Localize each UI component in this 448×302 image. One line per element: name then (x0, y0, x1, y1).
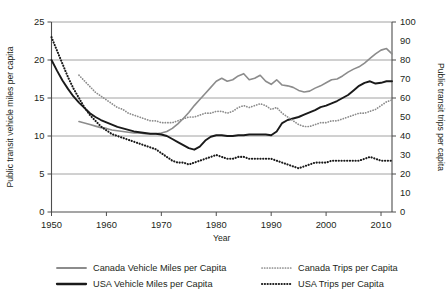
chart-canvas: 1950196019701980199020002010 0510152025 … (0, 0, 448, 302)
legend-label: Canada Vehicle Miles per Capita (93, 263, 227, 273)
y2-tick-label: 30 (400, 149, 410, 160)
y-axis-title: Public transit vehicle miles per capita (5, 46, 15, 187)
y-tick-label: 5 (39, 168, 44, 179)
y2-tick-label: 20 (400, 168, 410, 179)
y2-tick-label: 100 (400, 16, 416, 27)
y2-tick-label: 60 (400, 92, 410, 103)
y-tick-label: 25 (34, 16, 44, 27)
x-tick-label: 2000 (316, 219, 337, 230)
y2-tick-label: 40 (400, 130, 410, 141)
x-axis-title: Year (213, 233, 231, 243)
y-tick-label: 15 (34, 92, 44, 103)
y2-tick-label: 80 (400, 54, 410, 65)
legend-label: USA Trips per Capita (298, 279, 385, 289)
y2-axis-title: Public transit trips per capita (436, 63, 446, 171)
y-tick-label: 10 (34, 130, 44, 141)
x-tick-label: 1970 (151, 219, 172, 230)
transit-chart: 1950196019701980199020002010 0510152025 … (0, 0, 448, 302)
y-tick-label: 0 (39, 206, 44, 217)
x-tick-label: 1960 (96, 219, 117, 230)
x-tick-label: 1990 (261, 219, 282, 230)
y2-tick-label: 70 (400, 73, 410, 84)
x-tick-label: 2010 (371, 219, 392, 230)
y2-tick-label: 90 (400, 35, 410, 46)
chart-background (0, 0, 448, 302)
y2-tick-label: 50 (400, 111, 410, 122)
legend-label: USA Vehicle Miles per Capita (93, 279, 213, 289)
y2-tick-label: 0 (400, 206, 405, 217)
x-tick-label: 1950 (41, 219, 62, 230)
legend-label: Canada Trips per Capita (298, 263, 398, 273)
x-tick-label: 1980 (206, 219, 227, 230)
y2-tick-label: 10 (400, 187, 410, 198)
y-tick-label: 20 (34, 54, 44, 65)
